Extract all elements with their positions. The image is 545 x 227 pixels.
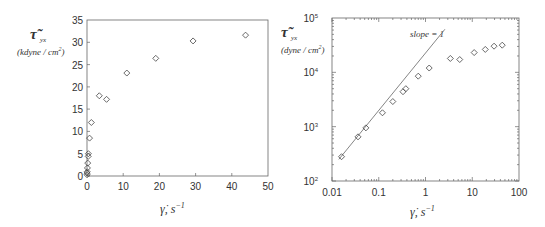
right-xtick-label: 0.1 — [372, 187, 386, 198]
right-ytick-label: 105 — [304, 13, 319, 24]
right-plot-frame — [332, 18, 519, 181]
left-xtick-label: 20 — [154, 181, 166, 192]
data-point-diamond — [88, 120, 94, 126]
data-point-diamond — [426, 65, 432, 71]
right-ytick-label: 103 — [304, 122, 319, 133]
data-point-diamond — [124, 70, 130, 76]
data-point-diamond — [403, 86, 409, 92]
right-data-points — [339, 42, 506, 160]
data-point-diamond — [390, 99, 396, 105]
left-ytick-label: 25 — [72, 60, 84, 71]
data-point-diamond — [104, 96, 110, 102]
left-chart: τ̃ yx (kdyne / cm2) 0 5 10 15 20 25 30 3… — [17, 15, 274, 216]
right-xtick-label: 100 — [511, 187, 528, 198]
data-point-diamond — [482, 46, 488, 52]
left-ytick-label: 30 — [72, 37, 84, 48]
data-point-diamond — [400, 89, 406, 95]
right-ylabel-subscript: yx — [290, 34, 298, 42]
data-point-diamond — [190, 38, 196, 44]
right-ylabel-units: (dyne / cm2) — [281, 44, 324, 55]
right-y-axis: 102 103 104 105 — [304, 13, 319, 187]
slope-annotation: slope = 1 — [410, 29, 444, 39]
data-point-diamond — [153, 55, 159, 61]
right-ytick-label: 102 — [304, 176, 319, 187]
right-chart: τ̃ yx (dyne / cm2) 102 103 104 105 0.01 … — [281, 13, 528, 219]
left-ytick-label: 20 — [72, 82, 84, 93]
left-ytick-label: 10 — [72, 126, 84, 137]
left-xtick-label: 40 — [226, 181, 238, 192]
left-xtick-label: 50 — [262, 181, 274, 192]
left-ytick-label: 35 — [72, 15, 84, 26]
left-ytick-label: 0 — [77, 171, 83, 182]
figure: τ̃ yx (kdyne / cm2) 0 5 10 15 20 25 30 3… — [0, 0, 545, 227]
slope-one-line — [339, 29, 445, 159]
right-ytick-label: 104 — [304, 67, 319, 78]
left-xtick-label: 30 — [190, 181, 202, 192]
right-xlabel: γ̇, s−1 — [410, 204, 435, 219]
left-ytick-label: 5 — [77, 149, 83, 160]
data-point-diamond — [379, 110, 385, 116]
left-ylabel-units: (kdyne / cm2) — [17, 46, 64, 57]
right-xtick-label: 0.01 — [322, 187, 342, 198]
left-data-points — [84, 32, 248, 178]
right-xtick-label: 10 — [467, 187, 479, 198]
left-xtick-label: 10 — [118, 181, 130, 192]
left-xlabel: γ̇, s−1 — [160, 201, 185, 216]
data-point-diamond — [457, 57, 463, 63]
data-point-diamond — [499, 42, 505, 48]
data-point-diamond — [471, 50, 477, 56]
left-plot-frame — [87, 20, 268, 176]
left-xtick-label: 0 — [84, 181, 90, 192]
data-point-diamond — [491, 43, 497, 49]
right-axis-ticks — [332, 18, 519, 181]
right-xtick-label: 1 — [423, 187, 429, 198]
data-point-diamond — [243, 32, 249, 38]
left-ytick-label: 15 — [72, 104, 84, 115]
data-point-diamond — [447, 55, 453, 61]
data-point-diamond — [96, 93, 102, 99]
left-ylabel-subscript: yx — [39, 36, 47, 44]
data-point-diamond — [415, 73, 421, 79]
data-point-diamond — [87, 135, 93, 141]
slope-line — [339, 29, 445, 159]
right-x-axis: 0.01 0.1 1 10 100 — [322, 187, 528, 198]
